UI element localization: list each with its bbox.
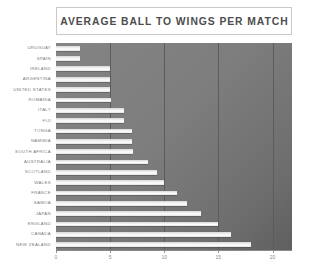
gridline [218,43,219,250]
x-axis-tick-label: 5 [109,254,112,260]
y-axis-label: ARGENTINA [23,76,51,81]
y-axis-label: ROMANIA [28,97,51,102]
bar [56,222,218,227]
y-axis-label: WALES [34,180,51,185]
bar [56,170,157,175]
y-axis-label: NEW ZEALAND [16,242,51,247]
bar [56,139,132,144]
bar [56,242,251,247]
bar [56,98,111,103]
bar [56,232,231,237]
y-axis-label: SOUTH AFRICA [15,149,51,154]
y-axis-label: SCOTLAND [25,169,51,174]
gridline [110,43,111,250]
y-axis-label: SPAIN [37,56,51,61]
x-axis-tick [218,250,219,253]
y-axis-label: URUGUAY [27,45,51,50]
y-axis-label: ITALY [38,107,51,112]
chart-container: AVERAGE BALL TO WINGS PER MATCH URUGUAYS… [0,0,309,275]
bar [56,56,80,61]
chart-title: AVERAGE BALL TO WINGS PER MATCH [60,15,288,27]
x-axis-tick-label: 20 [270,254,276,260]
gridline [164,43,165,250]
x-axis-tick-label: 15 [216,254,222,260]
y-axis-label: JAPAN [36,211,51,216]
gridline [273,43,274,250]
y-axis-label: AUSTRALIA [24,159,51,164]
y-axis-category-labels: URUGUAYSPAINIRELANDARGENTINAUNITED STATE… [0,43,54,250]
y-axis-label: TONGA [34,128,51,133]
bar [56,66,110,71]
y-axis-label: NAMIBIA [31,138,51,143]
y-axis-label: FRANCE [31,190,51,195]
y-axis-label: SAMOA [34,200,51,205]
y-axis-label: FIJI [42,118,51,123]
x-axis-tick [56,250,57,253]
x-axis-line [56,250,292,251]
bar [56,118,124,123]
x-axis-tick-label: 10 [161,254,167,260]
bar [56,46,80,51]
x-axis-tick-label: 0 [55,254,58,260]
y-axis-label: UNITED STATES [13,87,51,92]
bar [56,108,124,113]
x-axis-tick [273,250,274,253]
plot-area [56,43,292,250]
bar [56,149,133,154]
bar [56,87,110,92]
y-axis-label: CANADA [31,231,51,236]
y-axis-label: ENGLAND [28,221,51,226]
chart-title-box: AVERAGE BALL TO WINGS PER MATCH [56,7,292,35]
bar [56,160,148,165]
bar [56,129,132,134]
bar [56,211,201,216]
bar [56,180,164,185]
bar [56,77,110,82]
x-axis-tick [164,250,165,253]
bar [56,191,177,196]
x-axis-tick [110,250,111,253]
y-axis-label: IRELAND [30,66,51,71]
bar [56,201,187,206]
